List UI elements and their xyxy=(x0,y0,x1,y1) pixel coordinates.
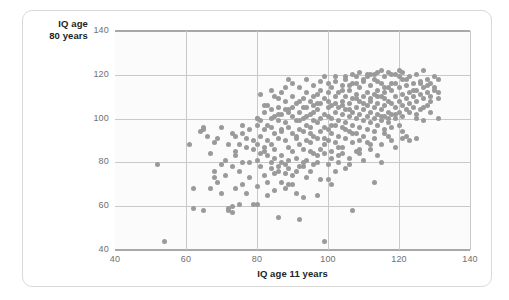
scatter-point xyxy=(329,116,334,121)
scatter-point xyxy=(329,131,334,136)
scatter-point xyxy=(421,118,426,123)
scatter-point xyxy=(237,202,242,207)
scatter-point xyxy=(322,74,327,79)
x-tick-label-80: 80 xyxy=(237,254,277,264)
scatter-point xyxy=(361,134,366,139)
scatter-point xyxy=(304,77,309,82)
scatter-point xyxy=(436,77,441,82)
scatter-point xyxy=(397,85,402,90)
scatter-point xyxy=(336,145,341,150)
scatter-point xyxy=(407,110,412,115)
scatter-point xyxy=(308,140,313,145)
scatter-point xyxy=(318,88,323,93)
scatter-point xyxy=(251,147,256,152)
x-tick-label-100: 100 xyxy=(308,254,348,264)
scatter-point xyxy=(255,142,260,147)
scatter-point xyxy=(368,99,373,104)
scatter-point xyxy=(276,169,281,174)
scatter-point xyxy=(315,120,320,125)
scatter-point xyxy=(311,162,316,167)
scatter-point xyxy=(265,123,270,128)
scatter-points-layer xyxy=(115,31,470,250)
scatter-point xyxy=(247,160,252,165)
scatter-point xyxy=(343,94,348,99)
x-tick-label-40: 40 xyxy=(95,254,135,264)
scatter-point xyxy=(304,90,309,95)
scatter-point xyxy=(283,85,288,90)
scatter-point xyxy=(208,186,213,191)
scatter-point xyxy=(372,129,377,134)
scatter-point xyxy=(290,94,295,99)
scatter-point xyxy=(329,156,334,161)
scatter-point xyxy=(329,182,334,187)
scatter-point xyxy=(414,116,419,121)
scatter-point xyxy=(343,166,348,171)
scatter-point xyxy=(219,191,224,196)
scatter-point xyxy=(340,112,345,117)
scatter-point xyxy=(237,142,242,147)
scatter-point xyxy=(208,151,213,156)
scatter-point xyxy=(301,129,306,134)
scatter-point xyxy=(368,110,373,115)
scatter-point xyxy=(407,138,412,143)
scatter-point xyxy=(205,134,210,139)
scatter-point xyxy=(418,81,423,86)
scatter-point xyxy=(315,101,320,106)
scatter-point xyxy=(318,79,323,84)
scatter-point xyxy=(393,145,398,150)
scatter-point xyxy=(223,158,228,163)
scatter-point xyxy=(329,123,334,128)
scatter-point xyxy=(379,114,384,119)
scatter-point xyxy=(326,105,331,110)
scatter-point xyxy=(436,116,441,121)
scatter-point xyxy=(347,88,352,93)
scatter-point xyxy=(304,114,309,119)
scatter-point xyxy=(265,180,270,185)
scatter-point xyxy=(290,149,295,154)
scatter-point xyxy=(389,138,394,143)
scatter-point xyxy=(404,83,409,88)
scatter-point xyxy=(223,173,228,178)
scatter-point xyxy=(233,153,238,158)
y-tick-label-80: 80 xyxy=(75,156,109,166)
scatter-plot-figure: IQ age 80 years IQ age 11 years 40608010… xyxy=(0,0,509,300)
scatter-point xyxy=(255,116,260,121)
scatter-point xyxy=(230,204,235,209)
scatter-point xyxy=(201,127,206,132)
scatter-point xyxy=(372,180,377,185)
scatter-point xyxy=(322,136,327,141)
scatter-point xyxy=(311,94,316,99)
scatter-point xyxy=(226,142,231,147)
scatter-point xyxy=(350,140,355,145)
scatter-point xyxy=(244,136,249,141)
scatter-point xyxy=(315,136,320,141)
scatter-point xyxy=(244,145,249,150)
scatter-point xyxy=(428,99,433,104)
scatter-point xyxy=(340,103,345,108)
scatter-point xyxy=(375,123,380,128)
scatter-point xyxy=(340,151,345,156)
scatter-point xyxy=(350,123,355,128)
scatter-point xyxy=(357,151,362,156)
scatter-point xyxy=(187,142,192,147)
scatter-point xyxy=(297,217,302,222)
scatter-point xyxy=(294,169,299,174)
scatter-point xyxy=(247,175,252,180)
scatter-point xyxy=(308,125,313,130)
scatter-point xyxy=(400,70,405,75)
scatter-point xyxy=(283,138,288,143)
scatter-point xyxy=(361,158,366,163)
x-tick-label-140: 140 xyxy=(450,254,490,264)
x-tick-label-60: 60 xyxy=(166,254,206,264)
scatter-point xyxy=(326,90,331,95)
scatter-point xyxy=(311,110,316,115)
scatter-point xyxy=(290,173,295,178)
scatter-point xyxy=(276,96,281,101)
scatter-point xyxy=(404,77,409,82)
scatter-point xyxy=(414,112,419,117)
scatter-point xyxy=(414,136,419,141)
scatter-point xyxy=(318,129,323,134)
scatter-point xyxy=(379,107,384,112)
scatter-point xyxy=(336,160,341,165)
scatter-point xyxy=(340,88,345,93)
